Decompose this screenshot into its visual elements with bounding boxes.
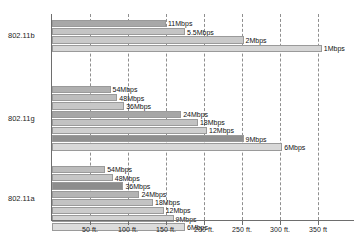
bar-802.11b-5.5Mbps [52, 28, 185, 35]
x-tick-50ft [90, 221, 91, 225]
x-tick-250ft [242, 221, 243, 225]
bar-802.11g-48Mbps [52, 94, 117, 101]
bar-value-label: 12Mbps [209, 127, 234, 134]
bar-802.11g-9Mbps [52, 135, 244, 142]
bar-value-label: 6Mbps [284, 144, 305, 151]
bar-802.11b-2Mbps [52, 36, 244, 43]
x-tick-300ft [280, 221, 281, 225]
bar-value-label: 48Mbps [115, 175, 140, 182]
wifi-range-chart: 11Mbps5.5Mbps2Mbps1Mbps54Mbps48Mbps36Mbp… [0, 0, 359, 248]
x-tick-350ft [318, 221, 319, 225]
bar-value-label: 54Mbps [107, 166, 132, 173]
y-axis-line [51, 14, 52, 221]
x-axis-line [51, 220, 354, 221]
bar-802.11a-9Mbps [52, 215, 174, 222]
bar-802.11a-54Mbps [52, 166, 105, 173]
bar-value-label: 18Mbps [155, 199, 180, 206]
bar-value-label: 11Mbps [168, 20, 192, 27]
y-category-label-802.11b: 802.11b [8, 31, 35, 40]
bar-value-label: 54Mbps [113, 86, 138, 93]
bar-value-label: 9Mbps [246, 136, 267, 143]
bar-802.11a-12Mbps [52, 207, 164, 214]
bar-802.11a-18Mbps [52, 199, 153, 206]
bar-802.11g-12Mbps [52, 127, 207, 134]
bar-802.11b-11Mbps [52, 20, 166, 27]
x-tick-100ft [128, 221, 129, 225]
bar-802.11b-1Mbps [52, 45, 322, 52]
y-category-label-802.11a: 802.11a [8, 194, 35, 203]
bar-802.11g-18Mbps [52, 119, 198, 126]
bar-802.11g-24Mbps [52, 111, 181, 118]
x-tick-150ft [166, 221, 167, 225]
bar-802.11g-54Mbps [52, 86, 111, 93]
x-tick-label: 350 ft [309, 226, 327, 233]
bar-802.11a-48Mbps [52, 174, 113, 181]
bar-802.11g-36Mbps [52, 102, 124, 109]
x-tick-200ft [204, 221, 205, 225]
bar-value-label: 2Mbps [246, 37, 267, 44]
bar-802.11a-36Mbps [52, 182, 123, 189]
x-tick-label: 250 ft. [232, 226, 252, 233]
x-tick-label: 150 ft. [156, 226, 176, 233]
bar-value-label: 48Mbps [119, 95, 144, 102]
x-tick-label: 300 ft. [270, 226, 290, 233]
y-category-label-802.11g: 802.11g [8, 114, 35, 123]
x-tick-label: 50 ft. [82, 226, 98, 233]
bar-value-label: 5.5Mbps [187, 29, 214, 36]
bar-802.11g-6Mbps [52, 143, 282, 150]
bar-value-label: 12Mbps [166, 207, 191, 214]
x-tick-label: 200 ft. [194, 226, 214, 233]
bar-value-label: 36Mbps [126, 103, 151, 110]
bar-value-label: 24Mbps [141, 191, 166, 198]
bar-value-label: 36Mbps [125, 183, 150, 190]
x-tick-label: 100 ft. [118, 226, 138, 233]
bar-value-label: 1Mbps [324, 45, 345, 52]
bar-802.11a-24Mbps [52, 191, 139, 198]
bar-value-label: 18Mbps [200, 119, 225, 126]
bar-value-label: 24Mbps [183, 111, 208, 118]
plot-area: 11Mbps5.5Mbps2Mbps1Mbps54Mbps48Mbps36Mbp… [52, 14, 354, 220]
